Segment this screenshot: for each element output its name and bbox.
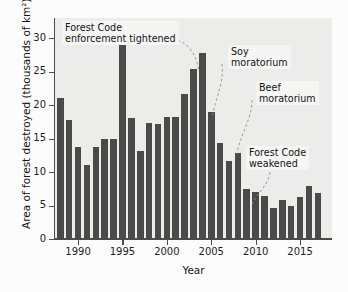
x-tick-mark: [300, 240, 301, 245]
y-tick-label: 5: [40, 200, 46, 210]
bar: [181, 94, 188, 239]
bar: [66, 120, 73, 239]
x-tick-label: 2000: [154, 247, 179, 257]
y-tick-mark: [49, 105, 54, 106]
bar: [110, 139, 117, 239]
x-axis-title: Year: [55, 264, 332, 276]
bar: [270, 208, 277, 239]
bar: [172, 117, 179, 239]
bar: [146, 123, 153, 239]
bar: [217, 143, 224, 239]
y-tick-label: 25: [33, 66, 46, 76]
bar: [93, 147, 100, 239]
annotation-forest-code-weakened: Forest Code weakened: [246, 146, 309, 170]
bar: [155, 124, 162, 239]
bar: [57, 98, 64, 239]
bar: [306, 186, 313, 239]
bar: [84, 165, 91, 239]
bar: [252, 192, 259, 239]
annotation-beef-moratorium: Beef moratorium: [256, 81, 319, 105]
bar: [137, 151, 144, 239]
x-tick-mark: [78, 240, 79, 245]
y-tick-mark: [49, 139, 54, 140]
x-tick-mark: [211, 240, 212, 245]
y-tick-mark: [49, 72, 54, 73]
y-tick-mark: [49, 38, 54, 39]
annotation-soy-moratorium: Soy moratorium: [228, 45, 291, 69]
bar: [75, 147, 82, 239]
y-tick-label: 15: [33, 133, 46, 143]
y-tick-label: 0: [40, 234, 46, 244]
x-tick-label: 2005: [199, 247, 224, 257]
x-tick-mark: [122, 240, 123, 245]
x-tick-label: 2015: [287, 247, 312, 257]
x-tick-label: 1990: [65, 247, 90, 257]
bar: [243, 189, 250, 239]
bar: [164, 117, 171, 239]
bar: [315, 193, 322, 239]
bar: [261, 196, 268, 239]
y-tick-mark: [49, 206, 54, 207]
bar: [279, 200, 286, 239]
bar: [119, 44, 126, 239]
y-tick-label: 10: [33, 167, 46, 177]
y-tick-label: 30: [33, 33, 46, 43]
bar: [226, 161, 233, 239]
x-tick-mark: [256, 240, 257, 245]
bar: [101, 139, 108, 239]
chart-figure: 051015202530 199019952000200520102015 Ar…: [0, 0, 348, 292]
y-tick-mark: [49, 172, 54, 173]
bar: [297, 197, 304, 239]
y-tick-mark: [49, 239, 54, 240]
bar: [288, 206, 295, 239]
bar: [190, 69, 197, 239]
y-axis-title: Area of forest destroyed (thousands of k…: [20, 19, 32, 229]
bar: [235, 153, 242, 239]
x-tick-label: 2010: [243, 247, 268, 257]
bar: [199, 53, 206, 239]
x-tick-mark: [167, 240, 168, 245]
bar: [128, 118, 135, 239]
bar: [208, 112, 215, 239]
y-tick-label: 20: [33, 100, 46, 110]
annotation-forest-code-enforcement-tightened: Forest Code enforcement tightened: [62, 21, 179, 45]
x-tick-label: 1995: [110, 247, 135, 257]
